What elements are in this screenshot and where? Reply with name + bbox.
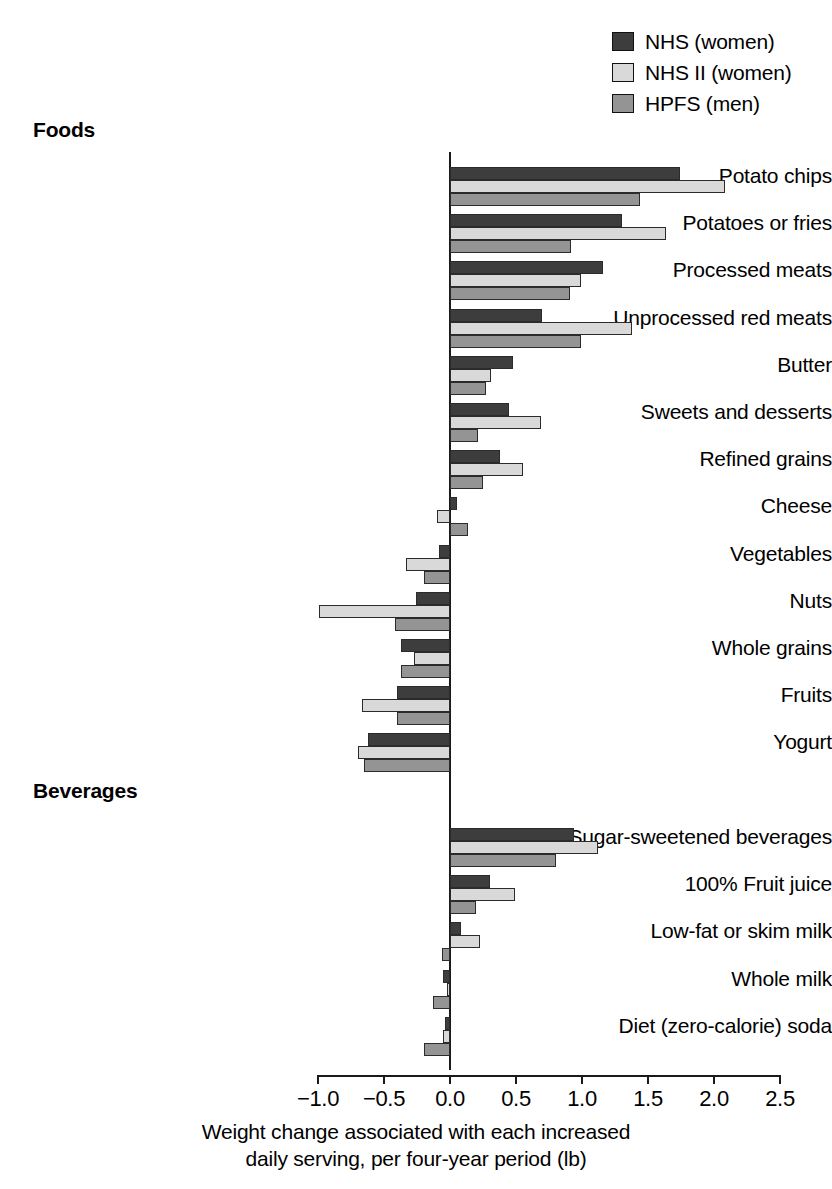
category-label: Vegetables <box>422 542 832 566</box>
x-tick <box>581 1075 583 1084</box>
chart-legend: NHS (women) NHS II (women) HPFS (men) <box>612 26 792 119</box>
legend-label-nhs-ii: NHS II (women) <box>645 62 792 83</box>
x-tick <box>647 1075 649 1084</box>
bar-nhs-ii <box>450 180 725 193</box>
plot-area: Potato chipsPotatoes or friesProcessed m… <box>0 0 832 1189</box>
legend-swatch-nhs <box>612 32 634 51</box>
category-label: Fruits <box>422 683 832 707</box>
bar-nhs-ii <box>362 699 450 712</box>
bar-nhs <box>439 545 450 558</box>
x-tick <box>713 1075 715 1084</box>
bar-nhs <box>450 167 680 180</box>
bar-hpfs <box>450 429 478 442</box>
bar-nhs <box>450 356 513 369</box>
x-tick <box>383 1075 385 1084</box>
bar-hpfs <box>450 382 486 395</box>
x-tick-label: 0.5 <box>501 1086 531 1112</box>
chart-row: Butter <box>0 342 832 389</box>
bar-nhs <box>401 639 450 652</box>
x-tick-label: 2.5 <box>765 1086 795 1112</box>
zero-axis-line <box>449 152 451 1070</box>
chart-row: Processed meats <box>0 247 832 294</box>
chart-row: Whole milk <box>0 956 832 1003</box>
section-heading-foods: Foods <box>33 118 95 142</box>
chart-row: Sugar-sweetened beverages <box>0 814 832 861</box>
bar-nhs-ii <box>443 1030 450 1043</box>
chart-row: Refined grains <box>0 436 832 483</box>
legend-swatch-nhs-ii <box>612 63 634 82</box>
chart-row: Potatoes or fries <box>0 200 832 247</box>
bar-nhs <box>368 733 450 746</box>
x-tick <box>779 1075 781 1084</box>
bar-nhs <box>450 261 603 274</box>
chart-row: Nuts <box>0 578 832 625</box>
bar-hpfs <box>450 476 483 489</box>
x-tick-label: 1.0 <box>567 1086 597 1112</box>
bar-nhs <box>443 970 450 983</box>
bar-nhs-ii <box>450 935 480 948</box>
bar-nhs-ii <box>319 605 450 618</box>
bar-nhs-ii <box>450 322 632 335</box>
bar-nhs-ii <box>450 369 491 382</box>
bar-hpfs <box>424 1043 450 1056</box>
x-tick-label: −0.5 <box>363 1086 405 1112</box>
legend-item-nhs-ii: NHS II (women) <box>612 57 792 88</box>
bar-hpfs <box>397 712 450 725</box>
bar-hpfs <box>450 287 570 300</box>
legend-label-hpfs: HPFS (men) <box>645 93 760 114</box>
chart-row: Whole grains <box>0 625 832 672</box>
bar-nhs <box>450 828 574 841</box>
category-label: Nuts <box>422 589 832 613</box>
category-label: Sweets and desserts <box>422 400 832 424</box>
bar-hpfs <box>401 665 450 678</box>
bar-hpfs <box>450 901 476 914</box>
category-label: 100% Fruit juice <box>422 872 832 896</box>
category-label: Refined grains <box>422 447 832 471</box>
bar-hpfs <box>424 571 450 584</box>
legend-item-hpfs: HPFS (men) <box>612 88 792 119</box>
bar-nhs-ii <box>450 227 666 240</box>
chart-row: Yogurt <box>0 719 832 766</box>
bar-hpfs <box>450 335 581 348</box>
bar-hpfs <box>450 193 640 206</box>
bar-nhs <box>450 875 490 888</box>
chart-row: Diet (zero-calorie) soda <box>0 1003 832 1050</box>
category-label: Unprocessed red meats <box>422 306 832 330</box>
x-axis-title-line2: daily serving, per four-year period (lb) <box>0 1145 832 1172</box>
bar-hpfs <box>433 996 450 1009</box>
bar-nhs <box>450 922 461 935</box>
section-heading-beverages: Beverages <box>33 779 137 803</box>
x-tick <box>449 1075 451 1084</box>
bar-nhs <box>416 592 450 605</box>
bar-nhs-ii <box>450 841 598 854</box>
chart-row: Cheese <box>0 483 832 530</box>
bar-nhs-ii <box>450 463 523 476</box>
bar-nhs-ii <box>447 983 450 996</box>
bar-nhs-ii <box>450 274 581 287</box>
bar-nhs-ii <box>358 746 450 759</box>
x-axis-line <box>318 1075 781 1077</box>
bar-nhs-ii <box>414 652 450 665</box>
chart-row: 100% Fruit juice <box>0 861 832 908</box>
bar-nhs <box>445 1017 450 1030</box>
category-label: Cheese <box>422 494 832 518</box>
bar-nhs <box>450 309 542 322</box>
bar-hpfs <box>395 618 450 631</box>
category-label: Low-fat or skim milk <box>422 919 832 943</box>
x-tick <box>515 1075 517 1084</box>
bar-nhs-ii <box>450 416 541 429</box>
category-label: Potatoes or fries <box>422 211 832 235</box>
category-label: Diet (zero-calorie) soda <box>422 1014 832 1038</box>
category-label: Whole grains <box>422 636 832 660</box>
x-tick-label: 1.5 <box>633 1086 663 1112</box>
x-tick-label: 0.0 <box>435 1086 465 1112</box>
x-tick-label: −1.0 <box>297 1086 339 1112</box>
bar-nhs <box>450 403 509 416</box>
category-label: Potato chips <box>422 164 832 188</box>
bar-hpfs <box>450 240 571 253</box>
x-tick-label: 2.0 <box>699 1086 729 1112</box>
category-label: Yogurt <box>422 730 832 754</box>
category-label: Processed meats <box>422 258 832 282</box>
chart-row: Vegetables <box>0 531 832 578</box>
bar-nhs-ii <box>437 510 450 523</box>
